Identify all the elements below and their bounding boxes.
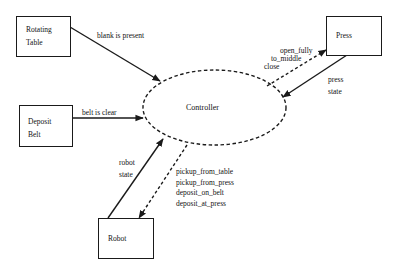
entity-label: Press — [336, 29, 352, 42]
label-robot-state: robot state — [119, 157, 135, 181]
controller-label: Controller — [186, 103, 219, 112]
entity-label: Robot — [108, 232, 126, 245]
entity-label: Deposit Belt — [28, 115, 51, 141]
entity-robot: Robot — [98, 218, 154, 259]
context-diagram: Controller Rotating Table Deposit Belt P… — [0, 0, 397, 274]
label-robot-commands: pickup_from_table pickup_from_press depo… — [176, 167, 234, 209]
label-close: close — [264, 63, 279, 72]
entity-rotating-table: Rotating Table — [16, 16, 71, 57]
entity-press: Press — [326, 16, 382, 56]
label-press-state: press state — [328, 74, 343, 98]
flow-robot-state — [108, 139, 163, 218]
label-blank-is-present: blank is present — [97, 30, 144, 42]
entity-deposit-belt: Deposit Belt — [19, 105, 73, 147]
label-belt-is-clear: belt is clear — [82, 107, 117, 119]
entity-label: Rotating Table — [26, 23, 52, 49]
